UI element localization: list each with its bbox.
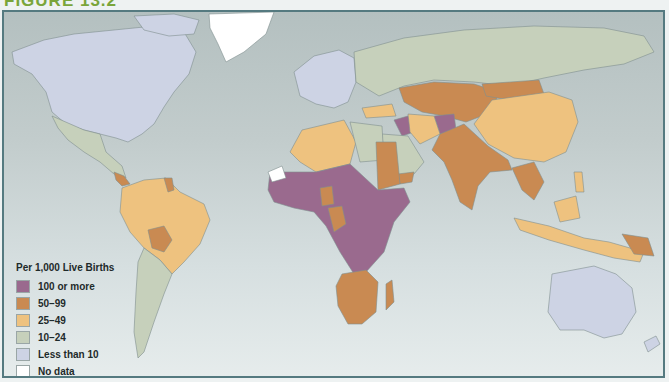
region-egypt-sudan (376, 142, 400, 190)
legend-label: No data (38, 366, 75, 377)
legend-item-100-or-more: 100 or more (16, 278, 114, 295)
legend-swatch (16, 297, 30, 310)
region-north-america (12, 26, 196, 142)
legend-item-no-data: No data (16, 363, 114, 378)
map-legend: Per 1,000 Live Births 100 or more 50–99 … (16, 262, 114, 378)
region-madagascar (386, 280, 394, 310)
legend-item-50-99: 50–99 (16, 295, 114, 312)
legend-swatch (16, 365, 30, 378)
region-southeast-asia (512, 162, 544, 200)
legend-swatch (16, 348, 30, 361)
legend-title: Per 1,000 Live Births (16, 262, 114, 273)
legend-item-less-than-10: Less than 10 (16, 346, 114, 363)
region-philippines (574, 172, 584, 192)
region-south-america-north (120, 178, 210, 274)
region-new-zealand (644, 336, 660, 352)
map-frame: Per 1,000 Live Births 100 or more 50–99 … (2, 10, 665, 378)
legend-label: 10–24 (38, 332, 66, 343)
region-greenland (209, 12, 274, 62)
legend-label: 50–99 (38, 298, 66, 309)
region-turkey (362, 104, 396, 118)
region-borneo (554, 196, 580, 222)
region-yemen (398, 172, 414, 184)
legend-item-25-49: 25–49 (16, 312, 114, 329)
legend-label: 100 or more (38, 281, 95, 292)
legend-label: 25–49 (38, 315, 66, 326)
region-indonesia (514, 218, 644, 262)
legend-item-10-24: 10–24 (16, 329, 114, 346)
legend-swatch (16, 280, 30, 293)
legend-swatch (16, 314, 30, 327)
region-nigeria-patch (320, 186, 334, 206)
region-europe (294, 50, 356, 108)
legend-swatch (16, 331, 30, 344)
region-australia (548, 266, 636, 338)
region-north-africa-west (290, 120, 356, 172)
legend-label: Less than 10 (38, 349, 99, 360)
region-southern-africa (336, 270, 378, 324)
